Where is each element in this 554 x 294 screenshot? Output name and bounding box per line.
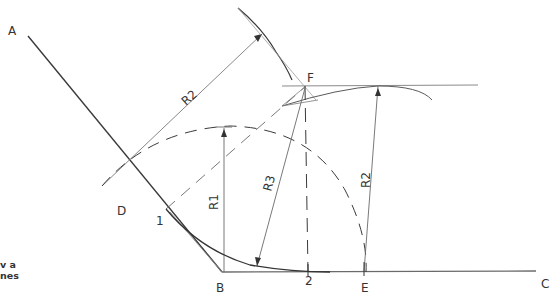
blend-curve: [166, 209, 330, 272]
dashed-vertical-f-2: [305, 86, 308, 272]
caption-line-2: nes: [0, 270, 19, 281]
label-f: F: [307, 71, 314, 85]
label-c: C: [541, 277, 549, 291]
label-a: A: [8, 24, 17, 38]
label-r2-right: R2: [359, 172, 373, 188]
label-r2-upper: R2: [179, 87, 200, 108]
label-b: B: [216, 281, 224, 294]
tangent-b-1: [170, 212, 222, 272]
label-one: 1: [156, 214, 164, 228]
caption-fragment: v a nes: [0, 259, 19, 281]
r3-arrowhead: [255, 257, 261, 266]
label-r1: R1: [207, 194, 221, 210]
r1-arrowhead: [221, 129, 227, 137]
label-two: 2: [305, 274, 313, 288]
geometry-diagram: A D 1 B 2 E C F R2 R1 R3 R2: [0, 0, 554, 294]
upper-tangent-arc: [238, 8, 292, 80]
caption-line-1: v a: [0, 259, 16, 270]
label-e: E: [361, 281, 369, 294]
line-ab: [28, 36, 222, 272]
label-d: D: [117, 204, 126, 218]
r2-right-arrowhead: [375, 88, 381, 96]
label-r3: R3: [260, 174, 278, 193]
line-bc: [222, 271, 536, 272]
r2-upper-dimension: [102, 34, 262, 186]
upper-tangent-line: [238, 8, 316, 100]
